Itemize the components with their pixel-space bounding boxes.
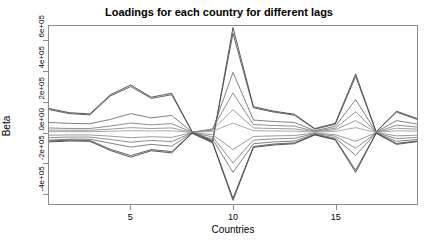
x-tick-mark: [336, 205, 337, 210]
y-tick-label-text: 6e+05: [37, 15, 46, 37]
y-axis: -4e+05-2e+050e+002e+054e+056e+05: [0, 25, 48, 205]
y-tick-label-text: 0e+00: [37, 108, 46, 130]
x-tick-label: 15: [331, 212, 341, 222]
x-tick-label: 5: [128, 212, 133, 222]
x-tick-label: 10: [228, 212, 238, 222]
x-axis-title: Countries: [48, 224, 418, 235]
chart-figure: Loadings for each country for different …: [0, 0, 438, 252]
y-tick-label-text: 2e+05: [37, 77, 46, 99]
y-tick-label: 2e+05: [37, 88, 46, 110]
series-line: [49, 93, 417, 132]
x-tick-mark: [130, 205, 131, 210]
plot-lines-svg: [49, 26, 417, 204]
series-line: [49, 133, 417, 198]
y-tick-label: 0e+00: [37, 119, 46, 141]
y-tick-label: -2e+05: [37, 148, 46, 173]
y-tick-label: 4e+05: [37, 57, 46, 79]
chart-title: Loadings for each country for different …: [0, 6, 438, 18]
plot-region: [48, 25, 418, 205]
y-tick-label-text: 4e+05: [37, 46, 46, 68]
y-tick-label: -4e+05: [37, 179, 46, 204]
y-tick-label: 6e+05: [37, 27, 46, 49]
x-tick-mark: [233, 205, 234, 210]
